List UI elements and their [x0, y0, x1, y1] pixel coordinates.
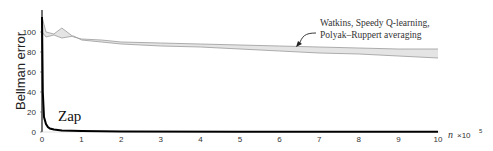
- axes: [42, 10, 440, 132]
- y-axis-label: Bellman error: [13, 31, 28, 110]
- y-tick-label: 60: [27, 68, 36, 77]
- bellman-error-chart: 020406080100 012345678910 Bellman error …: [0, 0, 493, 151]
- x-tick-label: 1: [79, 135, 84, 144]
- x-tick-label: 9: [396, 135, 401, 144]
- y-tick-label: 40: [27, 88, 36, 97]
- x-tick-label: 7: [317, 135, 322, 144]
- y-tick-label: 80: [27, 48, 36, 57]
- zap-label: Zap: [58, 108, 81, 124]
- annotation-arrow: [299, 33, 316, 45]
- x-axis-unit: n ×10 5: [448, 128, 483, 140]
- x-tick-label: 6: [277, 135, 282, 144]
- x-unit-mult: ×10: [457, 131, 471, 140]
- y-tick-label: 0: [32, 128, 37, 137]
- x-tick-label: 2: [119, 135, 124, 144]
- x-tick-label: 4: [198, 135, 203, 144]
- x-tick-label: 5: [238, 135, 243, 144]
- y-tick-label: 20: [27, 108, 36, 117]
- annotation-line-2: Polyak–Ruppert averaging: [320, 30, 422, 40]
- x-tick-label: 8: [357, 135, 362, 144]
- x-tick-label: 0: [40, 135, 45, 144]
- x-unit-n: n: [448, 129, 453, 140]
- x-tick-label: 10: [434, 135, 443, 144]
- x-unit-exp: 5: [479, 128, 483, 134]
- x-tick-label: 3: [159, 135, 164, 144]
- x-ticks: 012345678910: [40, 135, 443, 144]
- annotation-line-1: Watkins, Speedy Q-learning,: [320, 18, 430, 28]
